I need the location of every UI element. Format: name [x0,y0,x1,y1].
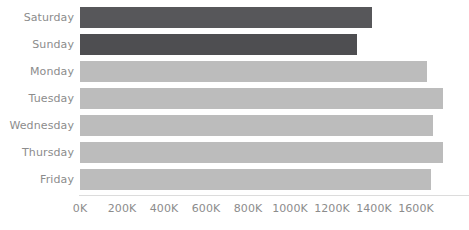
bar-saturday[interactable] [80,7,372,28]
x-tick-label-1600K: 1600K [398,202,434,215]
y-tick-label-friday: Friday [0,174,74,185]
bar-tuesday[interactable] [80,88,443,109]
x-tick-label-1400K: 1400K [356,202,392,215]
bar-friday[interactable] [80,169,431,190]
bar-sunday[interactable] [80,34,357,55]
plot-area [80,0,469,196]
x-tick-label-600K: 600K [192,202,221,215]
x-tick-label-1000K: 1000K [272,202,308,215]
x-axis-line [79,195,469,196]
bar-wednesday[interactable] [80,115,433,136]
y-axis-category-labels: SaturdaySundayMondayTuesdayWednesdayThur… [0,0,74,196]
bar-chart: SaturdaySundayMondayTuesdayWednesdayThur… [0,0,469,230]
x-tick-label-1200K: 1200K [314,202,350,215]
y-tick-label-thursday: Thursday [0,147,74,158]
y-tick-label-sunday: Sunday [0,39,74,50]
y-tick-label-tuesday: Tuesday [0,93,74,104]
bar-monday[interactable] [80,61,427,82]
x-tick-label-800K: 800K [234,202,263,215]
x-tick-label-400K: 400K [150,202,179,215]
y-tick-label-wednesday: Wednesday [0,120,74,131]
x-tick-label-0K: 0K [73,202,87,215]
bar-thursday[interactable] [80,142,443,163]
y-tick-label-monday: Monday [0,66,74,77]
x-tick-label-200K: 200K [108,202,137,215]
x-axis-tick-labels: 0K200K400K600K800K1000K1200K1400K1600K [0,202,469,222]
y-tick-label-saturday: Saturday [0,12,74,23]
